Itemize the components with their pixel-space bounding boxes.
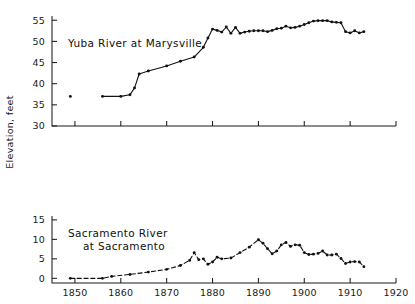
- data-point: [335, 21, 338, 24]
- data-point: [110, 275, 113, 278]
- x-tick-label: 1900: [292, 287, 317, 298]
- data-point: [280, 27, 283, 30]
- data-point: [307, 253, 310, 256]
- y-tick-label: 45: [33, 57, 46, 68]
- data-point: [257, 238, 260, 241]
- data-point: [239, 32, 242, 35]
- data-point: [303, 23, 306, 26]
- y-tick-label: 50: [33, 36, 46, 47]
- data-point: [147, 70, 150, 73]
- panel-yuba-river: Yuba River at Marysville 303540455055: [33, 15, 397, 132]
- data-point: [262, 29, 265, 32]
- y-tick-label: 15: [33, 214, 46, 225]
- data-point: [188, 259, 191, 262]
- data-point: [298, 244, 301, 247]
- data-point: [275, 27, 278, 30]
- data-point: [147, 271, 150, 274]
- data-point: [193, 251, 196, 254]
- y-tick-label: 5: [39, 253, 45, 264]
- data-point: [69, 277, 72, 280]
- data-point: [101, 95, 104, 98]
- data-point: [340, 257, 343, 260]
- data-point: [229, 32, 232, 35]
- y-tick-label: 40: [33, 78, 46, 89]
- x-tick-label: 1850: [62, 287, 87, 298]
- y-tick-label: 30: [33, 120, 46, 131]
- data-point: [257, 29, 260, 32]
- data-point: [321, 19, 324, 22]
- data-point: [252, 29, 255, 32]
- data-point: [207, 263, 210, 266]
- data-point: [330, 254, 333, 257]
- data-point: [321, 250, 324, 253]
- data-point: [353, 260, 356, 263]
- data-point: [271, 29, 274, 32]
- data-point: [266, 30, 269, 33]
- data-point: [340, 21, 343, 24]
- y-axis-title-text: Elevation, feet: [4, 95, 15, 168]
- data-point: [179, 264, 182, 267]
- data-point: [193, 56, 196, 59]
- data-point: [349, 261, 352, 264]
- panel-title-sacramento-line1: Sacramento River: [68, 227, 168, 239]
- x-tick-label: 1860: [108, 287, 133, 298]
- data-point: [165, 268, 168, 271]
- data-point: [271, 252, 274, 255]
- data-point: [307, 21, 310, 24]
- data-point: [362, 30, 365, 33]
- y-tick-label: 10: [33, 234, 46, 245]
- x-tick-label: 1920: [384, 287, 409, 298]
- data-point: [133, 86, 136, 89]
- series-markers-yuba: [69, 19, 365, 98]
- data-point: [220, 257, 223, 260]
- data-point: [202, 257, 205, 260]
- data-point: [312, 20, 315, 23]
- shared-y-axis-title: Elevation, feet: [4, 95, 15, 168]
- data-point: [248, 30, 251, 33]
- panel-title-sacramento-line2: at Sacramento: [83, 240, 165, 252]
- data-point: [69, 95, 72, 98]
- data-point: [248, 246, 251, 249]
- data-point: [216, 29, 219, 32]
- data-point: [317, 252, 320, 255]
- data-point: [362, 265, 365, 268]
- x-tick-label: 1870: [154, 287, 179, 298]
- y-tick-label: 55: [33, 15, 46, 26]
- series-line-yuba: [102, 21, 363, 97]
- data-point: [243, 31, 246, 34]
- data-point: [101, 277, 104, 280]
- data-point: [284, 25, 287, 28]
- x-tick-label: 1910: [338, 287, 363, 298]
- data-point: [344, 30, 347, 33]
- data-point: [211, 261, 214, 264]
- data-point: [298, 25, 301, 28]
- data-point: [207, 37, 210, 40]
- data-point: [284, 241, 287, 244]
- data-point: [317, 19, 320, 22]
- data-point: [225, 26, 228, 29]
- data-point: [289, 26, 292, 29]
- data-point: [326, 254, 329, 257]
- data-point: [165, 64, 168, 67]
- data-point: [326, 19, 329, 22]
- data-point: [239, 251, 242, 254]
- data-point: [229, 257, 232, 260]
- data-point: [197, 258, 200, 261]
- data-point: [335, 253, 338, 256]
- data-point: [344, 262, 347, 265]
- dual-panel-elevation-chart: Elevation, feet Yuba River at Marysville…: [0, 0, 415, 304]
- data-point: [275, 250, 278, 253]
- data-point: [216, 256, 219, 259]
- data-point: [349, 31, 352, 34]
- data-point: [266, 247, 269, 250]
- y-tick-labels-upper: 303540455055: [33, 15, 46, 132]
- data-point: [138, 73, 141, 76]
- x-tick-label: 1890: [246, 287, 271, 298]
- data-point: [312, 253, 315, 256]
- data-point: [303, 251, 306, 254]
- data-point: [358, 261, 361, 264]
- data-point: [129, 93, 132, 96]
- data-point: [119, 95, 122, 98]
- data-point: [330, 20, 333, 23]
- data-point: [353, 29, 356, 32]
